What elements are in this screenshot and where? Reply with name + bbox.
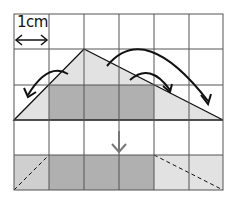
down-arrow-icon bbox=[112, 131, 126, 152]
scale-label: 1cm bbox=[17, 13, 48, 31]
triangle-rearrangement-diagram bbox=[0, 0, 233, 210]
double-arrow-icon bbox=[16, 35, 47, 45]
